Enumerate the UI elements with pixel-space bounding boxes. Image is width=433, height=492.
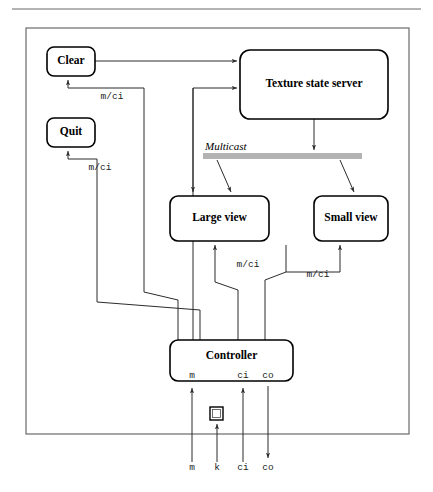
label-port-ci: ci xyxy=(237,370,249,381)
node-quit-label: Quit xyxy=(60,125,83,137)
node-group: ClearQuitTexture state serverLarge viewS… xyxy=(47,47,388,381)
label-ext-co: co xyxy=(262,462,274,473)
node-server-label: Texture state server xyxy=(265,77,362,89)
node-large: Large view xyxy=(170,196,269,241)
wire-group xyxy=(68,61,354,462)
multicast-bus: Multicast xyxy=(203,140,362,159)
node-small-label: Small view xyxy=(324,211,378,223)
node-small: Small view xyxy=(314,196,388,241)
diagram-canvas: Multicast ClearQuitTexture state serverL… xyxy=(0,0,433,492)
wire-bus-to-small xyxy=(340,160,354,192)
label-large-mci: m/ci xyxy=(237,259,260,270)
figure-diagram: Multicast ClearQuitTexture state serverL… xyxy=(0,0,433,492)
node-ctrl-label: Controller xyxy=(206,349,258,361)
multicast-bus-label: Multicast xyxy=(204,140,247,152)
wire-ctrl-to-large xyxy=(215,245,238,349)
node-quit: Quit xyxy=(47,118,95,147)
external-port-label-group: mkcico xyxy=(189,462,274,473)
label-ext-m: m xyxy=(189,462,195,473)
label-ext-k: k xyxy=(214,462,220,473)
label-port-m: m xyxy=(189,370,195,381)
keyboard-icon xyxy=(210,407,223,420)
label-clear-mci: m/ci xyxy=(101,91,124,102)
node-server: Texture state server xyxy=(240,50,388,119)
label-port-co: co xyxy=(262,370,274,381)
label-ext-ci: ci xyxy=(237,462,249,473)
label-quit-mci: m/ci xyxy=(89,162,112,173)
wire-ctrl-to-quit xyxy=(68,151,200,349)
multicast-bus-bar xyxy=(203,153,362,159)
node-large-label: Large view xyxy=(192,211,247,224)
node-clear: Clear xyxy=(47,47,95,76)
node-clear-label: Clear xyxy=(57,54,84,66)
wire-bus-to-large xyxy=(217,160,231,192)
wire-ctrl-to-small xyxy=(265,245,286,349)
label-small-mci: m/ci xyxy=(307,269,330,280)
wire-ctrl-to-small-2 xyxy=(286,245,340,272)
